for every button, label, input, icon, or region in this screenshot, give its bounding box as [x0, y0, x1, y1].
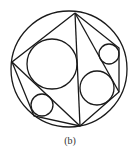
figure-caption: (b): [0, 135, 140, 146]
right-inscribed-circle: [80, 71, 114, 105]
diagonal-left-bottom: [12, 62, 80, 126]
small-upper-right-circle: [99, 44, 119, 64]
large-inscribed-circle: [27, 39, 77, 89]
geometry-figure: [0, 0, 140, 152]
outer-circle: [11, 11, 127, 127]
small-lower-left-circle: [31, 94, 53, 116]
